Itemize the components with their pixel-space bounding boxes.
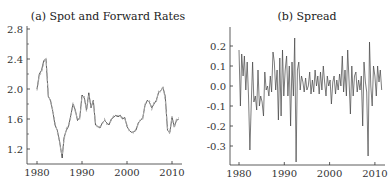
x-tick-label: 2000: [317, 168, 342, 179]
x-tick-label: 1990: [272, 168, 297, 179]
x-tick-label: 1990: [69, 167, 94, 178]
chart-figure: (a) Spot and Forward Rates 1980199020002…: [0, 0, 391, 184]
x-tick-label: 2010: [159, 167, 184, 178]
y-tick-label: 0.2: [210, 41, 226, 52]
y-tick-label: 1.2: [7, 144, 23, 155]
series-line-spot: [37, 59, 179, 158]
panel-a-series: [37, 58, 179, 159]
panel-a: (a) Spot and Forward Rates 1980199020002…: [7, 10, 185, 178]
panel-b-title: (b) Spread: [277, 10, 336, 23]
series-line-spread: [239, 38, 382, 162]
y-tick-label: 2.8: [7, 24, 23, 35]
y-tick-label: 0.0: [210, 81, 226, 92]
x-tick-label: 1980: [24, 167, 49, 178]
x-tick-label: 1980: [226, 168, 251, 179]
y-tick-label: -0.2: [207, 121, 226, 132]
series-line-forward: [37, 58, 179, 156]
panel-a-title: (a) Spot and Forward Rates: [31, 10, 186, 23]
panel-b: (b) Spread 1980199020002010-0.3-0.2-0.10…: [207, 10, 388, 179]
y-tick-label: 0.1: [210, 61, 226, 72]
panel-a-ticks: 19801990200020101.21.62.02.42.8: [7, 24, 185, 179]
y-tick-label: 1.6: [7, 114, 23, 125]
y-tick-label: -0.3: [207, 141, 226, 152]
x-tick-label: 2010: [362, 168, 387, 179]
y-tick-label: 2.0: [7, 84, 23, 95]
x-tick-label: 2000: [114, 167, 139, 178]
y-tick-label: -0.1: [207, 101, 226, 112]
panel-b-series: [239, 38, 382, 162]
y-tick-label: 2.4: [7, 54, 23, 65]
